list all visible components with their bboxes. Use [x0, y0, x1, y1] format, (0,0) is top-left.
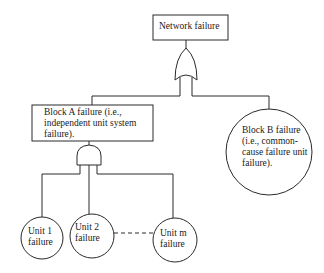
unit-1-label-1: Unit 1: [28, 226, 52, 237]
unit-m-label-2: failure: [160, 239, 185, 250]
block-a-label-1: Block A failure (i.e.,: [44, 107, 122, 118]
or-gate-icon: [175, 48, 197, 80]
unit-2-label-1: Unit 2: [75, 222, 99, 233]
block-a-label-3: failure).: [44, 129, 74, 140]
unit-2-label-2: failure: [75, 233, 100, 244]
network-failure-label: Network failure: [159, 21, 219, 32]
and-gate-icon: [77, 145, 101, 165]
unit-m-label-1: Unit m: [160, 228, 187, 239]
block-b-label-2: (i.e., common-: [242, 136, 298, 147]
block-b-label-3: cause failure unit: [242, 147, 307, 158]
block-a-label-2: independent unit system: [44, 118, 136, 129]
unit-1-label-2: failure: [28, 237, 53, 248]
block-b-label-1: Block B failure: [242, 125, 301, 136]
block-b-label-4: failure).: [242, 158, 272, 169]
